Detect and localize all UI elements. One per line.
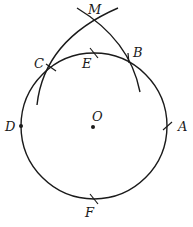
- label-d: D: [4, 119, 16, 134]
- geometry-diagram: M B C E O D A F: [0, 0, 193, 227]
- label-m: M: [87, 2, 102, 17]
- arc-centered-at-b: [37, 8, 118, 105]
- arc-centered-at-c: [77, 8, 140, 92]
- label-b: B: [132, 45, 143, 60]
- label-o: O: [92, 109, 103, 124]
- point-o-dot: [91, 125, 95, 129]
- label-e: E: [81, 56, 92, 71]
- label-c: C: [34, 56, 44, 71]
- label-f: F: [84, 205, 95, 220]
- label-a: A: [177, 119, 187, 134]
- point-d-dot: [19, 124, 23, 128]
